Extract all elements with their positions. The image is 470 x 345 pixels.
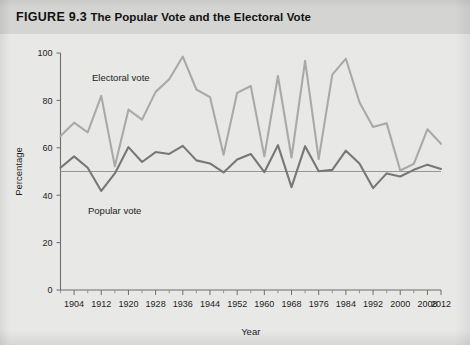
y-tick-label: 0 <box>47 285 52 295</box>
figure-container: FIGURE 9.3 The Popular Vote and the Elec… <box>0 0 470 345</box>
y-tick-label: 20 <box>42 238 52 248</box>
annotation-electoral-vote: Electoral vote <box>92 72 150 83</box>
x-tick-label: 1904 <box>64 299 84 309</box>
annotation-popular-vote: Popular vote <box>88 205 141 216</box>
x-tick-label: 1944 <box>200 299 220 309</box>
x-tick-label: 1960 <box>254 299 274 309</box>
x-tick-label: 2012 <box>431 299 451 309</box>
plot-area: 0204060801001904191219201928193619441952… <box>0 34 470 345</box>
x-tick-label: 1912 <box>91 299 111 309</box>
line-chart: 0204060801001904191219201928193619441952… <box>0 34 470 345</box>
x-tick-label: 1936 <box>173 299 193 309</box>
y-tick-label: 80 <box>42 96 52 106</box>
x-tick-label: 1976 <box>309 299 329 309</box>
figure-title-text: The Popular Vote and the Electoral Vote <box>90 11 311 23</box>
x-tick-label: 1920 <box>118 299 138 309</box>
y-tick-label: 60 <box>42 143 52 153</box>
chart-labels: PercentageYearElectoral votePopular vote <box>13 72 260 337</box>
x-tick-label: 1968 <box>282 299 302 309</box>
x-tick-label: 1984 <box>336 299 356 309</box>
chart-axes: 0204060801001904191219201928193619441952… <box>37 48 451 309</box>
x-tick-label: 1928 <box>146 299 166 309</box>
y-tick-label: 100 <box>37 48 52 58</box>
figure-title: FIGURE 9.3 The Popular Vote and the Elec… <box>16 10 311 24</box>
figure-number: FIGURE 9.3 <box>16 10 87 24</box>
x-tick-label: 1952 <box>227 299 247 309</box>
y-tick-label: 40 <box>42 191 52 201</box>
y-axis-title: Percentage <box>13 147 24 196</box>
figure-title-band: FIGURE 9.3 The Popular Vote and the Elec… <box>0 0 470 34</box>
x-tick-label: 1992 <box>363 299 383 309</box>
x-axis-title: Year <box>241 326 260 337</box>
x-tick-label: 2000 <box>390 299 410 309</box>
